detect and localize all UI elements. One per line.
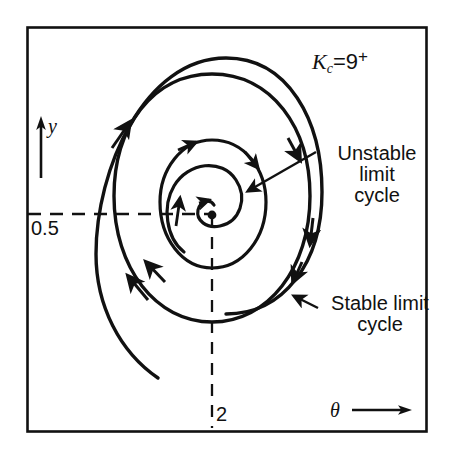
unstable-label-line1: Unstable — [318, 143, 436, 164]
parameter-superscript: + — [358, 47, 368, 66]
y-axis-label: y — [48, 116, 57, 137]
stable-label-line2: cycle — [310, 314, 450, 335]
y-tick-label: 0.5 — [31, 218, 59, 239]
x-tick-label: 2 — [216, 404, 227, 425]
phase-plane-figure: Kc=9+ Unstablelimitcycle Stable limitcyc… — [0, 0, 454, 452]
parameter-equals: = — [333, 49, 346, 74]
unstable-limit-cycle-label: Unstablelimitcycle — [318, 143, 436, 205]
stable-label-line1: Stable limit — [331, 292, 429, 314]
outer-trajectory-arrow-right — [310, 218, 313, 244]
parameter-label: Kc=9+ — [312, 48, 368, 77]
parameter-value: 9 — [346, 49, 358, 74]
stable-limit-cycle-label: Stable limitcycle — [310, 293, 450, 335]
outer-trajectory-arrow-left — [146, 262, 165, 282]
equilibrium-point — [208, 211, 217, 220]
inner-trajectory-arrow-left — [176, 198, 180, 226]
phase-portrait-canvas — [0, 0, 454, 452]
parameter-symbol: K — [312, 49, 327, 74]
figure-frame — [28, 28, 427, 432]
unstable-label-line2: limit — [318, 164, 436, 185]
unstable-cycle-arrow-right — [245, 152, 258, 168]
stable-cycle-arrow-upper-right — [288, 138, 300, 160]
unstable-label-line3: cycle — [318, 185, 436, 206]
x-axis-label: θ — [330, 400, 340, 421]
